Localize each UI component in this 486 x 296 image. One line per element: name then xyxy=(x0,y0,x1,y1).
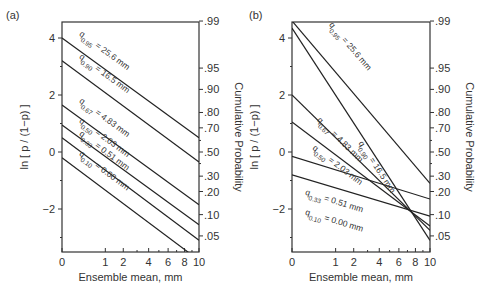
y2-tick-label: .80 xyxy=(204,106,219,118)
x-tick-label: 10 xyxy=(424,256,436,268)
y2-tick-label: .70 xyxy=(435,122,450,134)
x-tick-label: 6 xyxy=(165,256,171,268)
y2-tick-label: .30 xyxy=(204,170,219,182)
y2-axis-label: Cumulative Probability xyxy=(233,82,245,192)
series-line xyxy=(62,61,199,162)
y2-tick-label: .95 xyxy=(204,62,219,74)
y-tick-label: −2 xyxy=(42,203,55,215)
x-tick-label: 4 xyxy=(146,256,152,268)
x-tick-label: 2 xyxy=(351,256,357,268)
y2-tick-label: .95 xyxy=(435,62,450,74)
y-axis-label: ln [ p / (1−p) ] xyxy=(18,104,30,169)
series-label: q0.95 = 25.6 mm xyxy=(325,20,374,74)
y2-tick-label: .50 xyxy=(204,146,219,158)
x-tick-label: 4 xyxy=(376,256,382,268)
y2-tick-label: .99 xyxy=(204,15,219,27)
x-tick-label: 8 xyxy=(181,256,187,268)
x-tick-label: 6 xyxy=(396,256,402,268)
y-tick-label: 4 xyxy=(279,32,285,44)
y-axis-label: ln [ p / (1−p) ] xyxy=(248,104,260,169)
x-tick-label: 10 xyxy=(193,256,205,268)
panel-label: (b) xyxy=(249,9,262,21)
x-tick-label: 0 xyxy=(289,256,295,268)
x-tick-label: 2 xyxy=(120,256,126,268)
y2-tick-label: .99 xyxy=(435,15,450,27)
y-tick-label: 0 xyxy=(279,146,285,158)
y-tick-label: 2 xyxy=(279,89,285,101)
y2-tick-label: .90 xyxy=(204,83,219,95)
chart-panel-a: (a)420−2.99.95.90.80.70.50.30.20.10.0501… xyxy=(6,9,245,283)
y2-tick-label: .20 xyxy=(204,186,219,198)
figure: (a)420−2.99.95.90.80.70.50.30.20.10.0501… xyxy=(0,0,486,296)
y2-tick-label: .50 xyxy=(435,146,450,158)
x-tick-label: 1 xyxy=(333,256,339,268)
y-tick-label: −2 xyxy=(272,203,285,215)
x-tick-label: 1 xyxy=(102,256,108,268)
panel-label: (a) xyxy=(6,9,19,21)
y2-tick-label: .10 xyxy=(204,209,219,221)
y2-tick-label: .30 xyxy=(435,170,450,182)
y-tick-label: 2 xyxy=(49,89,55,101)
x-tick-label: 0 xyxy=(59,256,65,268)
y2-tick-label: .10 xyxy=(435,209,450,221)
series-label: q0.90 = 16.5 mm xyxy=(354,139,398,197)
y2-tick-label: .05 xyxy=(204,230,219,242)
y-tick-label: 4 xyxy=(49,32,55,44)
y2-tick-label: .80 xyxy=(435,106,450,118)
y-tick-label: 0 xyxy=(49,146,55,158)
y2-tick-label: .70 xyxy=(204,122,219,134)
y2-axis-label: Cumulative Probability xyxy=(464,82,476,192)
y2-tick-label: .20 xyxy=(435,186,450,198)
x-axis-label: Ensemble mean, mm xyxy=(309,271,413,283)
y2-tick-label: .05 xyxy=(435,230,450,242)
chart-panel-b: (b)420−2.99.95.90.80.70.50.30.20.10.0501… xyxy=(248,9,476,283)
x-tick-label: 8 xyxy=(412,256,418,268)
y2-tick-label: .90 xyxy=(435,83,450,95)
series-label: q0.33 = 0.51 mm xyxy=(303,187,364,217)
x-axis-label: Ensemble mean, mm xyxy=(79,271,183,283)
